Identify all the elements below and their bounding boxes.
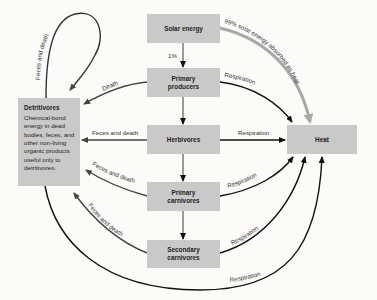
label-herbivores-respiration: Respiration: [238, 129, 270, 136]
node-herbivores: Herbivores: [147, 125, 220, 154]
arrow-detritivores-loop: [46, 13, 100, 98]
node-secondary-carnivores-line1: Secondary: [167, 246, 200, 254]
node-primary-carnivores-line1: Primary: [172, 189, 196, 197]
label-herbivores-feces-death: Feces and death: [92, 129, 139, 136]
node-primary-carnivores-line2: carnivores: [167, 197, 199, 205]
node-secondary-carnivores-line2: carnivores: [167, 254, 199, 262]
label-primary-carnivores-feces-death: Feces and death: [92, 160, 137, 184]
node-solar-energy: Solar energy: [147, 14, 220, 43]
node-solar-energy-label: Solar energy: [164, 25, 203, 33]
label-producers-death: Death: [101, 79, 119, 92]
label-secondary-carnivores-feces-death: Feces and death: [87, 202, 125, 238]
label-detritivores-loop: Feces and death: [34, 32, 50, 80]
node-secondary-carnivores: Secondary carnivores: [147, 240, 220, 268]
node-primary-producers: Primary producers: [147, 68, 220, 97]
node-primary-producers-line2: producers: [168, 83, 199, 91]
arrow-detritivores-respiration: [45, 157, 322, 290]
node-detritivores-title: Detritivores: [24, 104, 76, 111]
node-detritivores: Detritivores Chemical-bond energy in dea…: [18, 98, 80, 186]
label-1-percent: 1%: [168, 52, 177, 59]
arrow-producers-respiration: [220, 82, 292, 122]
node-herbivores-label: Herbivores: [167, 136, 200, 144]
node-heat-label: Heat: [315, 136, 329, 144]
node-primary-carnivores: Primary carnivores: [147, 182, 220, 211]
node-heat: Heat: [287, 125, 357, 154]
node-primary-producers-line1: Primary: [172, 75, 196, 83]
node-detritivores-description: Chemical-bond energy in dead bodies, fec…: [24, 114, 76, 173]
